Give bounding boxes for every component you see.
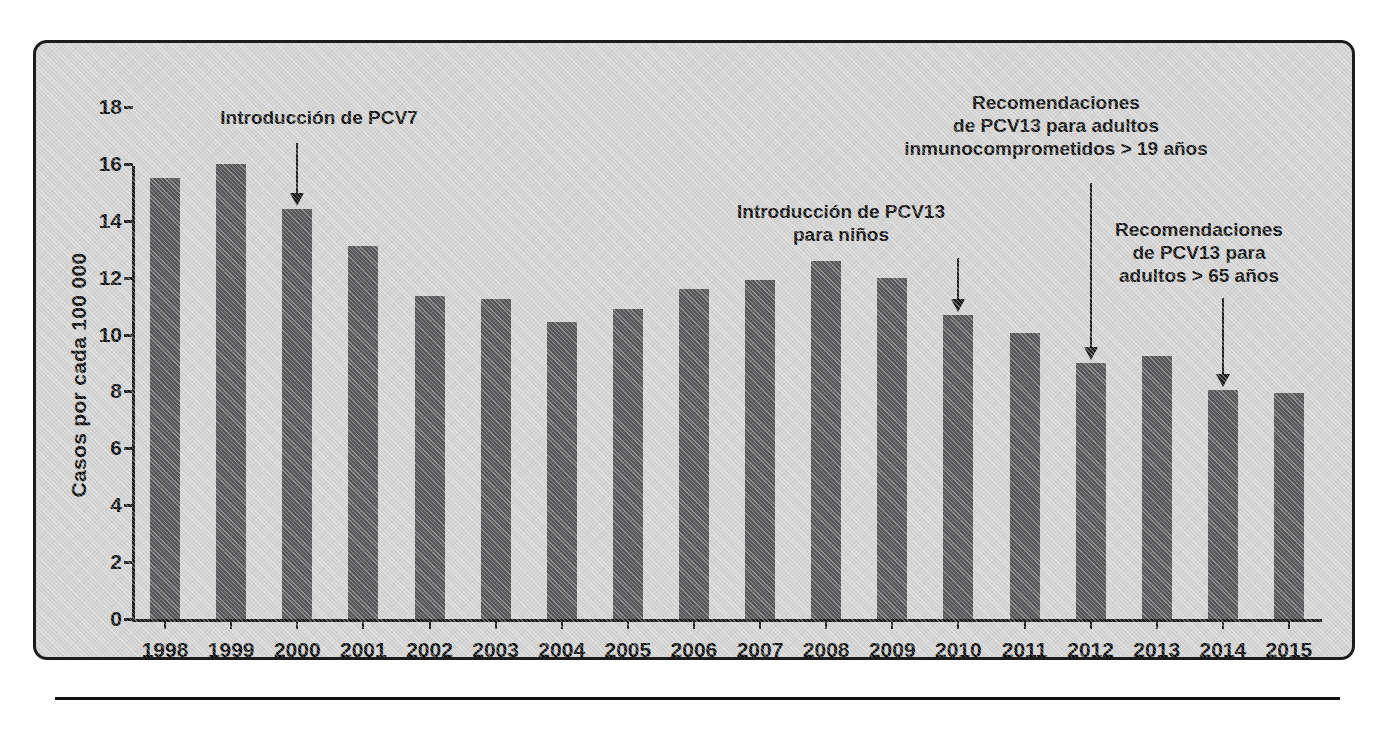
bar [348, 246, 378, 619]
bar [547, 322, 577, 619]
y-tick-label: 10 [62, 324, 122, 345]
x-tick-label: 2010 [923, 639, 993, 660]
bar [415, 296, 445, 619]
y-tick-label: 12 [62, 267, 122, 288]
bar [877, 278, 907, 619]
x-tick-label: 2007 [725, 639, 795, 660]
y-tick-mark [124, 163, 133, 166]
y-tick-mark [124, 277, 133, 280]
x-tick-label: 2001 [328, 639, 398, 660]
x-tick-mark [495, 621, 497, 629]
y-tick-mark [124, 390, 133, 393]
x-tick-mark [296, 621, 298, 629]
arrow-head-icon [1216, 374, 1230, 387]
chart-panel: Casos por cada 100 000 024681012141618 1… [33, 40, 1355, 660]
x-tick-label: 2002 [395, 639, 465, 660]
x-tick-mark [1288, 621, 1290, 629]
bar [216, 164, 246, 619]
y-tick-mark [124, 106, 133, 109]
x-tick-mark [825, 621, 827, 629]
annotation-pcv13-adults-over-65: Recomendaciones de PCV13 para adultos > … [1054, 218, 1344, 288]
x-tick-mark [891, 621, 893, 629]
x-tick-mark [230, 621, 232, 629]
bottom-rule [55, 697, 1340, 700]
x-tick-mark [561, 621, 563, 629]
x-tick-mark [957, 621, 959, 629]
x-tick-mark [1156, 621, 1158, 629]
x-tick-label: 2005 [593, 639, 663, 660]
figure-root: Casos por cada 100 000 024681012141618 1… [0, 0, 1389, 746]
arrow-shaft [296, 143, 298, 193]
x-tick-label: 2006 [659, 639, 729, 660]
y-tick-mark [124, 220, 133, 223]
bar [1274, 393, 1304, 619]
x-tick-label: 2009 [857, 639, 927, 660]
annotation-pcv13-children-introduction: Introducción de PCV13 para niños [681, 200, 1001, 246]
y-tick-label: 0 [62, 608, 122, 629]
y-tick-mark [124, 504, 133, 507]
y-tick-label: 6 [62, 437, 122, 458]
y-tick-label: 18 [62, 96, 122, 117]
arrow-head-icon [290, 193, 304, 206]
bar [282, 209, 312, 619]
x-tick-label: 2000 [262, 639, 332, 660]
bar [613, 309, 643, 619]
x-tick-label: 2015 [1254, 639, 1324, 660]
bar [943, 315, 973, 619]
x-tick-mark [1024, 621, 1026, 629]
bar [150, 178, 180, 619]
x-tick-mark [759, 621, 761, 629]
y-tick-label: 14 [62, 210, 122, 231]
x-tick-mark [1090, 621, 1092, 629]
annotation-pcv7-introduction: Introducción de PCV7 [154, 106, 484, 129]
bar [679, 289, 709, 619]
annotation-arrow-pcv13-children-introduction [950, 258, 966, 312]
y-tick-label: 4 [62, 494, 122, 515]
x-tick-mark [164, 621, 166, 629]
x-tick-label: 2012 [1056, 639, 1126, 660]
arrow-head-icon [951, 299, 965, 312]
x-tick-label: 2014 [1188, 639, 1258, 660]
x-tick-label: 1998 [130, 639, 200, 660]
bar [1142, 356, 1172, 619]
y-axis-line [132, 166, 135, 622]
x-axis-line [132, 619, 1322, 622]
x-tick-mark [693, 621, 695, 629]
bar [481, 299, 511, 619]
x-tick-label: 2004 [527, 639, 597, 660]
y-tick-mark [124, 447, 133, 450]
y-tick-mark [124, 334, 133, 337]
bar [1076, 363, 1106, 619]
y-tick-mark [124, 618, 133, 621]
x-tick-label: 2013 [1122, 639, 1192, 660]
bar [1208, 390, 1238, 619]
x-tick-label: 2003 [461, 639, 531, 660]
annotation-arrow-pcv13-adults-over-65 [1215, 298, 1231, 387]
annotation-arrow-pcv7-introduction [289, 143, 305, 206]
x-tick-mark [1222, 621, 1224, 629]
x-tick-mark [627, 621, 629, 629]
arrow-shaft [1222, 298, 1224, 374]
bar [745, 280, 775, 619]
x-tick-mark [362, 621, 364, 629]
y-tick-label: 16 [62, 153, 122, 174]
arrow-shaft [957, 258, 959, 299]
y-tick-label: 8 [62, 380, 122, 401]
y-tick-mark [124, 561, 133, 564]
x-tick-label: 1999 [196, 639, 266, 660]
x-tick-label: 2008 [791, 639, 861, 660]
arrow-head-icon [1084, 347, 1098, 360]
bar [1010, 333, 1040, 619]
x-tick-mark [429, 621, 431, 629]
plot-area: Casos por cada 100 000 024681012141618 1… [36, 43, 1358, 663]
bar [811, 261, 841, 619]
y-tick-label: 2 [62, 551, 122, 572]
annotation-pcv13-immunocompromised-adults: Recomendaciones de PCV13 para adultos in… [856, 91, 1256, 161]
x-tick-label: 2011 [990, 639, 1060, 660]
